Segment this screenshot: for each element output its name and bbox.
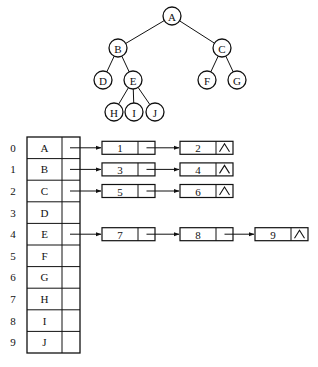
tree-node-label: H (110, 107, 118, 119)
list-node-6: 6 (180, 185, 233, 198)
list-node-9: 9 (255, 228, 308, 241)
tree-node-A: A (163, 7, 181, 25)
row-vertex: C (41, 185, 48, 197)
row-index: 0 (10, 142, 16, 154)
tree-node-label: B (114, 43, 121, 55)
row-index: 2 (10, 185, 16, 197)
tree-edges (107, 21, 233, 105)
list-node-box (255, 228, 308, 241)
tree-node-I: I (125, 103, 143, 121)
list-node-8: 8 (180, 228, 254, 241)
adjacency-table: 0A1B2C3D4E5F6G7H8I9J (10, 137, 80, 353)
row-index: 5 (10, 250, 16, 262)
tree-edge-B-D (107, 56, 114, 72)
row-index: 6 (10, 271, 16, 283)
row-vertex: B (41, 163, 48, 175)
tree-node-label: D (99, 75, 107, 87)
list-node-4: 4 (180, 163, 233, 176)
list-node-1: 1 (102, 141, 179, 154)
tree-node-D: D (94, 71, 112, 89)
row-index: 4 (10, 228, 16, 240)
tree-edge-E-H (119, 88, 129, 105)
row-vertex: E (41, 228, 48, 240)
tree-node-C: C (213, 39, 231, 57)
list-node-value: 9 (270, 229, 276, 241)
list-node-3: 3 (102, 163, 179, 176)
list-node-5: 5 (102, 185, 179, 198)
row-vertex: G (41, 271, 49, 283)
row-vertex: F (41, 250, 47, 262)
list-node-value: 2 (195, 142, 201, 154)
row-index: 3 (10, 207, 16, 219)
list-node-value: 1 (117, 142, 123, 154)
list-node-box (180, 163, 233, 176)
list-node-box (180, 141, 233, 154)
tree-edge-B-E (122, 56, 129, 72)
tree-node-F: F (198, 71, 216, 89)
list-node-box (180, 185, 233, 198)
list-node-value: 8 (195, 229, 201, 241)
list-node-value: 6 (195, 186, 201, 198)
tree-node-J: J (146, 103, 164, 121)
list-node-value: 5 (117, 186, 123, 198)
row-index: 9 (10, 336, 16, 348)
tree-node-label: E (130, 75, 137, 87)
row-index: 1 (10, 163, 16, 175)
list-node-value: 3 (117, 164, 123, 176)
tree-child-list-diagram: ABCDEFGHIJ 0A1B2C3D4E5F6G7H8I9J 12345678… (0, 0, 318, 367)
row-vertex: I (43, 315, 47, 327)
list-node-value: 4 (195, 164, 201, 176)
tree-node-G: G (228, 71, 246, 89)
list-node-value: 7 (117, 229, 123, 241)
tree-node-label: F (204, 75, 210, 87)
tree-node-label: C (218, 43, 225, 55)
tree-node-H: H (105, 103, 123, 121)
tree-node-label: J (153, 107, 158, 119)
row-vertex: D (41, 207, 49, 219)
tree-edge-E-J (138, 87, 150, 104)
row-index: 8 (10, 315, 16, 327)
tree-nodes: ABCDEFGHIJ (94, 7, 246, 121)
tree-node-label: I (132, 107, 136, 119)
row-vertex: H (41, 293, 49, 305)
tree-edge-C-G (226, 56, 233, 72)
tree-node-label: G (233, 75, 241, 87)
row-index: 7 (10, 293, 16, 305)
list-node-7: 7 (102, 228, 179, 241)
list-node-2: 2 (180, 141, 233, 154)
tree-edge-C-F (211, 56, 218, 72)
tree-node-E: E (124, 71, 142, 89)
tree-edge-A-B (126, 21, 165, 44)
row-vertex: A (41, 142, 49, 154)
row-vertex: J (42, 336, 47, 348)
child-linked-lists: 123456789 (70, 141, 308, 240)
tree-node-label: A (168, 11, 176, 23)
tree-edge-A-C (180, 21, 215, 43)
tree-node-B: B (109, 39, 127, 57)
